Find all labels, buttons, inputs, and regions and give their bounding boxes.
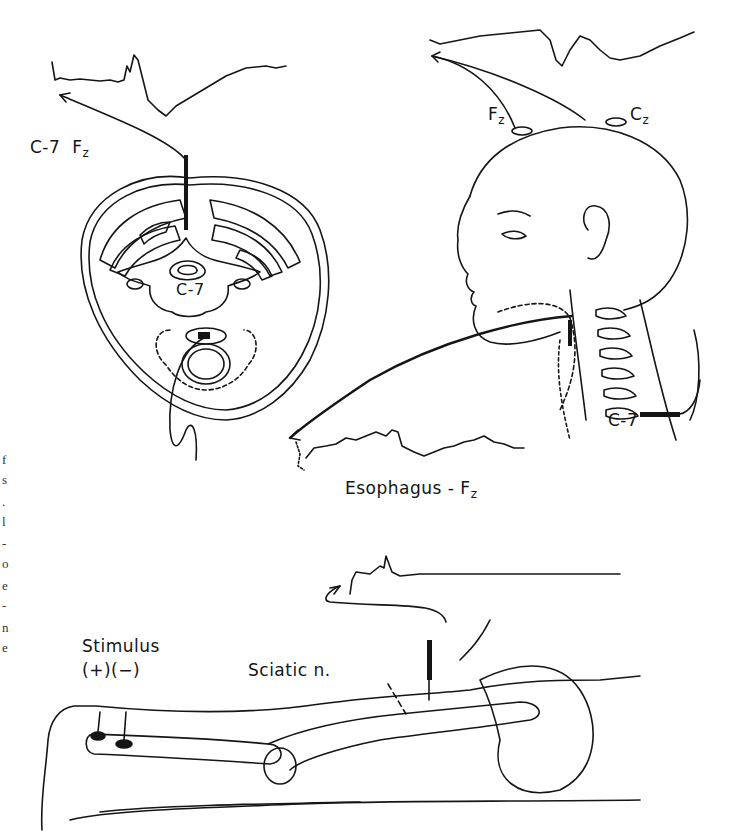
label-fz-sub: z [82, 146, 89, 160]
vertebra-c7 [118, 238, 260, 317]
label-scalp-cz-sub: z [642, 113, 649, 127]
label-esophagus-fz: Esophagus - Fz [345, 478, 477, 501]
sciatic-trace [350, 556, 620, 594]
margin-fragment: f [2, 452, 6, 468]
label-c7-text: C-7 [30, 137, 60, 157]
label-neck-c7-text: C-7 [608, 410, 638, 430]
head-outline [470, 127, 687, 310]
stimulus-electrode-positive [91, 732, 105, 740]
margin-fragment: n [2, 620, 9, 636]
sciatic-needle [427, 640, 432, 680]
label-esophagus-text: Esophagus - F [345, 478, 471, 498]
margin-fragment: o [2, 556, 9, 572]
electrode-cz [606, 118, 626, 126]
stimulus-electrode-negative [116, 740, 132, 748]
label-scalp-fz: Fz [488, 104, 505, 127]
label-scalp-fz-sub: z [498, 113, 505, 127]
leg-outline [42, 676, 640, 830]
margin-fragment: . [2, 494, 5, 510]
label-vertebra-text: C-7 [176, 280, 205, 299]
label-sciatic-text: Sciatic n. [248, 660, 331, 680]
label-polarity-text: (+)(−) [82, 660, 140, 680]
label-vertebra-c7: C-7 [176, 280, 205, 299]
margin-fragment: - [2, 536, 6, 552]
label-stimulus: Stimulus [82, 636, 160, 656]
label-scalp-cz-text: C [630, 104, 642, 124]
label-sciatic-nerve: Sciatic n. [248, 660, 331, 680]
label-scalp-cz: Cz [630, 104, 649, 127]
label-fz-text: F [72, 137, 82, 157]
label-esophagus-sub: z [471, 487, 478, 501]
electrode-fz [512, 127, 532, 135]
label-polarity: (+)(−) [82, 660, 140, 680]
label-neck-c7: C-7 [608, 410, 638, 430]
margin-fragment: s [2, 472, 7, 488]
label-stimulus-text: Stimulus [82, 636, 160, 656]
margin-fragment: - [2, 598, 6, 614]
scalp-trace [430, 30, 694, 66]
margin-fragment: e [2, 578, 8, 594]
neck-outline-inner [89, 184, 320, 410]
margin-fragment: l [2, 514, 6, 530]
label-scalp-fz-text: F [488, 104, 498, 124]
ear [584, 206, 609, 259]
esophageal-trace [296, 442, 304, 470]
margin-fragment: e [2, 640, 8, 656]
label-c7-fz: C-7 Fz [30, 137, 89, 160]
